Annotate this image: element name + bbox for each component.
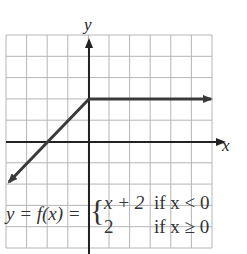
y-axis-label: y <box>82 15 92 34</box>
case2-expr: 2 <box>104 216 114 237</box>
case1-cond: if x < 0 <box>154 192 210 213</box>
case2-cond: if x ≥ 0 <box>154 216 209 237</box>
case1-expr: x + 2 <box>103 192 145 213</box>
svg-text:y = f(x) =: y = f(x) = <box>4 203 81 225</box>
equation: y = f(x) = { x + 2 if x < 0 2 if x ≥ 0 <box>4 192 210 237</box>
x-axis-label: x <box>221 136 230 155</box>
equation-lhs: y = f(x) = <box>4 203 81 225</box>
graph-branch-linear <box>9 99 89 182</box>
left-brace: { <box>90 193 104 226</box>
piecewise-graph: x y y = f(x) = { x + 2 if x < 0 2 if x ≥… <box>0 0 247 254</box>
